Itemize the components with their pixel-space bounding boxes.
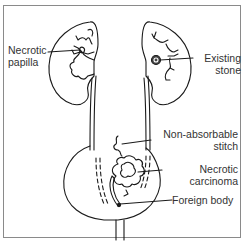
label-line-1: Existing: [195, 52, 241, 64]
foreign-body: [110, 176, 120, 206]
left-ureter: [90, 76, 96, 150]
label-line-1: Necrotic: [8, 44, 47, 56]
stitch-shape: [114, 136, 122, 156]
label-line-2: stitch: [150, 140, 238, 152]
label-line-2: papilla: [8, 56, 47, 68]
label-non-absorbable-stitch: Non-absorbable stitch: [150, 128, 238, 152]
stone-outer: [152, 56, 161, 65]
label-existing-stone: Existing stone: [195, 52, 241, 76]
label-foreign-body: Foreign body: [172, 194, 233, 206]
urethra: [116, 220, 124, 240]
leader-existing-stone: [160, 58, 193, 60]
left-dashed-line-2: [100, 158, 108, 204]
carcinoma-inner: [121, 162, 136, 177]
label-line-2: stone: [195, 64, 241, 76]
leader-foreign-body: [120, 200, 172, 204]
leader-carcinoma: [138, 170, 162, 172]
label-line-1: Non-absorbable: [150, 128, 238, 140]
label-necrotic-papilla: Necrotic papilla: [8, 44, 47, 68]
label-necrotic-carcinoma: Necrotic carcinoma: [160, 163, 238, 187]
left-calyces: [70, 29, 94, 79]
label-line-2: carcinoma: [160, 175, 238, 187]
urinary-tract-drawing: [0, 0, 244, 243]
label-line-1: Necrotic: [160, 163, 238, 175]
leader-stitch: [122, 140, 151, 144]
carcinoma-tail: [124, 190, 128, 196]
